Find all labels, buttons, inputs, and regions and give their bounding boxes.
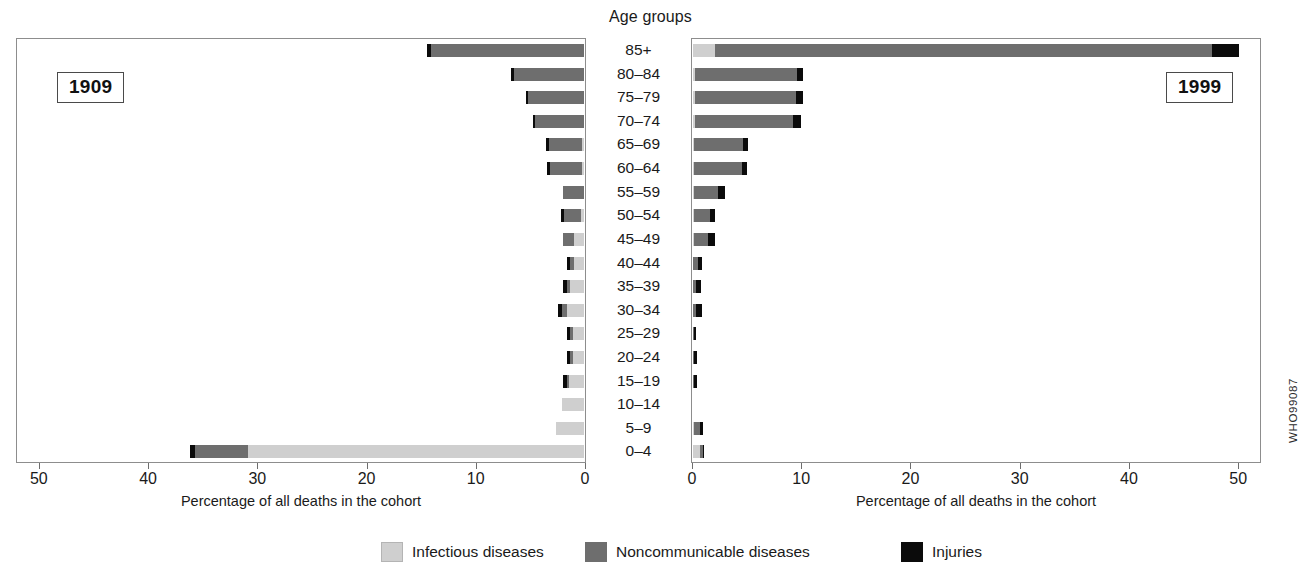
bar-segment-inj <box>1212 44 1239 57</box>
age-group-label: 25–29 <box>586 321 691 345</box>
bar-row <box>692 299 1260 323</box>
stacked-bar <box>563 186 584 199</box>
who-reference-code: WHO99087 <box>1287 378 1299 443</box>
age-group-label: 65–69 <box>586 132 691 156</box>
axis-tick <box>39 463 40 469</box>
stacked-bar <box>693 257 702 270</box>
bar-segment-inf <box>573 351 584 364</box>
age-group-label: 30–34 <box>586 298 691 322</box>
bar-row <box>692 322 1260 346</box>
bar-row <box>17 39 585 63</box>
bar-segment-ncd <box>528 91 584 104</box>
stacked-bar <box>567 351 584 364</box>
bar-segment-inj <box>796 91 804 104</box>
bar-segment-inj <box>694 351 697 364</box>
bar-segment-ncd <box>549 138 582 151</box>
stacked-bar <box>693 115 801 128</box>
bar-segment-ncd <box>694 162 742 175</box>
bar-segment-inj <box>547 162 550 175</box>
bar-segment-ncd <box>694 233 708 246</box>
bar-segment-inf <box>570 280 584 293</box>
stacked-bar <box>567 257 584 270</box>
bar-row <box>692 393 1260 417</box>
stacked-bar <box>693 351 697 364</box>
age-group-label: 15–19 <box>586 369 691 393</box>
bar-row <box>17 370 585 394</box>
x-axis-1909: Percentage of all deaths in the cohort 5… <box>16 463 586 517</box>
stacked-bar <box>190 445 584 458</box>
age-group-label: 20–24 <box>586 345 691 369</box>
bar-segment-inf <box>581 209 584 222</box>
axis-tick-label: 10 <box>467 470 485 488</box>
bar-segment-inf <box>567 304 584 317</box>
legend-label-injuries: Injuries <box>932 543 982 561</box>
bar-segment-inj <box>797 68 804 81</box>
stacked-bar <box>563 233 584 246</box>
stacked-bar <box>561 209 584 222</box>
bar-segment-inj <box>700 422 703 435</box>
axis-tick-label: 30 <box>248 470 266 488</box>
axis-tick <box>257 463 258 469</box>
legend-item-infectious-diseases: Infectious diseases <box>381 540 544 564</box>
bar-segment-inj <box>710 209 714 222</box>
axis-tick <box>1020 463 1021 469</box>
axis-tick <box>148 463 149 469</box>
stacked-bar <box>511 68 584 81</box>
bar-segment-inj <box>703 445 704 458</box>
bar-segment-inf <box>248 445 584 458</box>
stacked-bar <box>693 233 715 246</box>
bar-segment-ncd <box>564 209 580 222</box>
axis-tick-label: 20 <box>358 470 376 488</box>
stacked-bar <box>693 162 747 175</box>
stacked-bar <box>556 422 584 435</box>
x-axis-title-right: Percentage of all deaths in the cohort <box>691 493 1261 509</box>
bar-segment-ncd <box>514 68 584 81</box>
age-group-label: 70–74 <box>586 109 691 133</box>
bar-segment-ncd <box>535 115 584 128</box>
bar-segment-inj <box>526 91 528 104</box>
axis-tick-label: 40 <box>1120 470 1138 488</box>
bar-row <box>692 133 1260 157</box>
legend-label-noncommunicable: Noncommunicable diseases <box>616 543 810 561</box>
axis-tick <box>1238 463 1239 469</box>
bar-segment-inf <box>562 398 584 411</box>
bar-segment-inj <box>567 257 570 270</box>
axis-tick-label: 50 <box>1229 470 1247 488</box>
bar-segment-inj <box>698 257 701 270</box>
bar-segment-ncd <box>695 68 797 81</box>
axis-tick <box>1129 463 1130 469</box>
bar-segment-ncd <box>431 44 584 57</box>
bar-row <box>692 370 1260 394</box>
bar-segment-inj <box>567 351 570 364</box>
bar-segment-inj <box>563 280 566 293</box>
bar-segment-inf <box>693 44 715 57</box>
bar-segment-inj <box>558 304 562 317</box>
stacked-bar <box>563 375 584 388</box>
legend-swatch-infectious-icon <box>381 542 403 562</box>
bar-row <box>692 417 1260 441</box>
age-group-label: 85+ <box>586 38 691 62</box>
age-group-label: 80–84 <box>586 62 691 86</box>
legend-label-infectious: Infectious diseases <box>412 543 544 561</box>
stacked-bar <box>562 398 584 411</box>
stacked-bar <box>693 68 803 81</box>
bar-segment-inj <box>190 445 195 458</box>
bar-segment-inj <box>561 209 564 222</box>
age-group-label: 35–39 <box>586 274 691 298</box>
bar-segment-ncd <box>570 351 573 364</box>
stacked-bar <box>693 327 696 340</box>
bar-segment-inj <box>708 233 715 246</box>
bar-row <box>17 252 585 276</box>
chart-center-title: Age groups <box>0 8 1301 26</box>
bar-segment-inj <box>718 186 725 199</box>
bar-segment-ncd <box>567 280 570 293</box>
stacked-bar <box>693 186 725 199</box>
bar-segment-ncd <box>570 257 574 270</box>
bar-row <box>17 181 585 205</box>
x-axis-title-left: Percentage of all deaths in the cohort <box>16 493 586 509</box>
age-group-label-column: 85+80–8475–7970–7465–6960–6455–5950–5445… <box>586 38 691 463</box>
stacked-bar <box>693 209 715 222</box>
bar-row <box>17 110 585 134</box>
legend-swatch-noncommunicable-icon <box>585 542 607 562</box>
stacked-bar <box>693 422 703 435</box>
